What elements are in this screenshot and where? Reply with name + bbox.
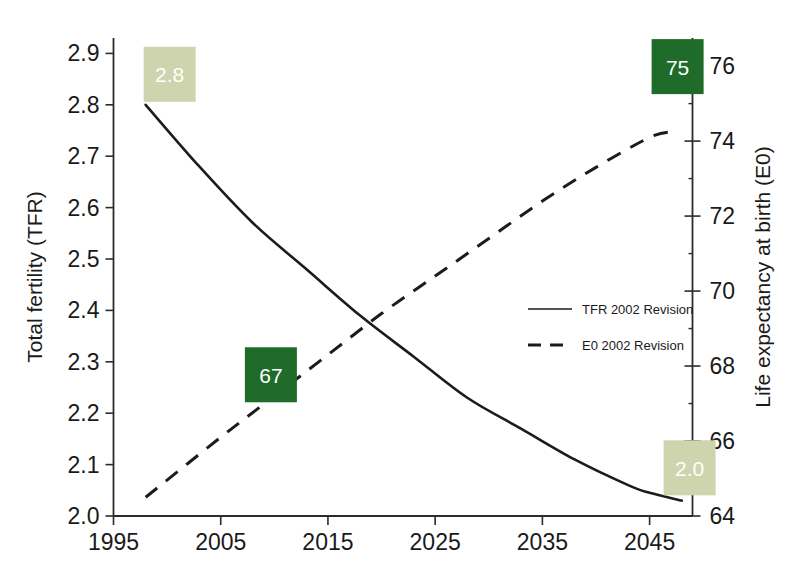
y-axis-left-title: Total fertility (TFR) [23, 191, 46, 363]
y-axis-right-tick-label: 70 [710, 278, 736, 304]
y-axis-left-tick-label: 2.3 [68, 349, 100, 375]
y-axis-left-tick-label: 2.4 [68, 297, 100, 323]
chart-legend: TFR 2002 RevisionE0 2002 Revision [528, 302, 693, 353]
callout-label-2-0: 2.0 [675, 457, 704, 480]
x-axis-tick-label: 2015 [302, 529, 353, 555]
y-axis-left-tick-label: 2.7 [68, 143, 100, 169]
y-axis-left-ticks: 2.02.12.22.32.42.52.62.72.82.9 [68, 40, 114, 529]
y-axis-right-tick-label: 72 [710, 203, 736, 229]
y-axis-right-tick-label: 74 [710, 128, 736, 154]
callout-label-75: 75 [666, 56, 689, 79]
axes-group [114, 38, 693, 516]
y-axis-left-tick-label: 2.9 [68, 40, 100, 66]
y-axis-left-tick-label: 2.1 [68, 452, 100, 478]
y-axis-right-tick-label: 64 [710, 503, 736, 529]
y-axis-right-title: Life expectancy at birth (E0) [751, 146, 774, 407]
callout-label-67: 67 [259, 364, 282, 387]
y-axis-left-tick-label: 2.8 [68, 92, 100, 118]
x-axis-tick-label: 2045 [624, 529, 675, 555]
callout-label-2-8: 2.8 [155, 63, 184, 86]
x-axis-tick-label: 2035 [517, 529, 568, 555]
x-axis-tick-label: 2025 [410, 529, 461, 555]
x-axis-tick-label: 2005 [195, 529, 246, 555]
y-axis-right-tick-label: 68 [710, 353, 736, 379]
y-axis-left-tick-label: 2.2 [68, 400, 100, 426]
chart-canvas: 2.02.12.22.32.42.52.62.72.82.9 199520052… [0, 0, 796, 584]
x-axis-tick-label: 1995 [88, 529, 139, 555]
y-axis-left-tick-label: 2.6 [68, 195, 100, 221]
legend-label: E0 2002 Revision [582, 338, 684, 353]
y-axis-left-tick-label: 2.0 [68, 503, 100, 529]
legend-label: TFR 2002 Revision [582, 302, 693, 317]
data-annotations-group: 2.82.06775 [144, 39, 716, 495]
chart-container: 2.02.12.22.32.42.52.62.72.82.9 199520052… [0, 0, 796, 584]
y-axis-left-tick-label: 2.5 [68, 246, 100, 272]
x-axis-ticks: 199520052015202520352045 [88, 516, 675, 555]
y-axis-right-tick-label: 76 [710, 53, 736, 79]
